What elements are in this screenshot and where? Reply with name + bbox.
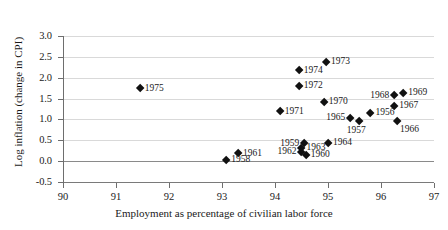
x-axis-tick (116, 183, 117, 188)
x-axis-tick-label: 90 (48, 191, 78, 202)
x-axis-tick-label: 96 (366, 191, 396, 202)
x-axis-tick-label: 95 (313, 191, 343, 202)
data-point-label: 1970 (329, 97, 348, 107)
diamond-marker-icon (346, 114, 355, 123)
y-axis-tick-label: 1.0 (22, 114, 52, 125)
data-point-label: 1966 (400, 125, 419, 135)
data-point-label: 1969 (408, 88, 427, 98)
data-point-label: 1973 (331, 57, 350, 67)
y-axis-tick (58, 57, 63, 58)
y-axis-tick-label: 2.0 (22, 73, 52, 84)
data-point-label: 1971 (285, 107, 304, 117)
data-point-label: 1957 (347, 126, 366, 136)
y-axis-tick-label: 0.5 (22, 135, 52, 146)
diamond-marker-icon (366, 109, 375, 118)
plot-area: 1975197419731972197119701968196919671956… (63, 36, 434, 182)
x-axis-tick-label: 92 (154, 191, 184, 202)
x-axis-tick (434, 183, 435, 188)
x-axis-tick-label: 93 (207, 191, 237, 202)
y-gridline (63, 119, 434, 120)
data-point-label: 1962 (278, 147, 297, 157)
y-gridline (63, 36, 434, 37)
y-axis-tick (58, 99, 63, 100)
y-gridline (63, 78, 434, 79)
diamond-marker-icon (275, 107, 284, 116)
data-point-label: 1974 (304, 66, 323, 76)
y-axis-tick-label: 1.5 (22, 94, 52, 105)
x-axis-tick (328, 183, 329, 188)
x-axis-tick-label: 94 (260, 191, 290, 202)
diamond-marker-icon (135, 84, 144, 93)
x-axis-tick-label: 91 (101, 191, 131, 202)
y-axis-tick-label: 2.5 (22, 52, 52, 63)
y-axis-tick (58, 161, 63, 162)
data-point-label: 1956 (375, 108, 394, 118)
data-point-label: 1964 (333, 138, 352, 148)
y-axis-tick-label: -0.5 (22, 177, 52, 188)
diamond-marker-icon (294, 66, 303, 75)
y-gridline (63, 140, 434, 141)
y-axis-tick (58, 78, 63, 79)
x-axis-tick (63, 183, 64, 188)
diamond-marker-icon (399, 89, 408, 98)
data-point-label: 1967 (399, 101, 418, 111)
diamond-marker-icon (294, 82, 303, 91)
y-axis-tick-label: 3.0 (22, 31, 52, 42)
y-gridline (63, 57, 434, 58)
data-point-label: 1960 (311, 150, 330, 160)
data-point-label: 1965 (326, 113, 345, 123)
y-gridline (63, 182, 434, 183)
data-point-label: 1968 (370, 91, 389, 101)
x-axis-tick (222, 183, 223, 188)
data-point-label: 1975 (145, 84, 164, 94)
x-axis-tick (275, 183, 276, 188)
y-axis-tick (58, 140, 63, 141)
y-axis-line (63, 36, 64, 183)
diamond-marker-icon (222, 156, 231, 165)
x-axis-title: Employment as percentage of civilian lab… (0, 207, 448, 219)
y-axis-tick-label: 0.0 (22, 156, 52, 167)
y-axis-tick (58, 119, 63, 120)
data-point-label: 1972 (304, 81, 323, 91)
data-point-label: 1958 (231, 155, 250, 165)
x-axis-tick (381, 183, 382, 188)
y-axis-tick (58, 36, 63, 37)
x-axis-tick-label: 97 (419, 191, 448, 202)
scatter-chart-figure: 1975197419731972197119701968196919671956… (0, 0, 448, 230)
x-axis-tick (169, 183, 170, 188)
